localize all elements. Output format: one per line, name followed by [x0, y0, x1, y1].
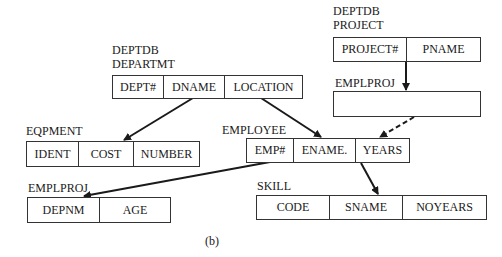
arrow-dname-to-cost	[124, 98, 193, 140]
field-cost: COST	[79, 142, 134, 166]
field-age: AGE	[100, 198, 170, 222]
field-location: LOCATION	[225, 76, 302, 98]
field-code: CODE	[257, 196, 330, 219]
emplproj-bottom-record: DEPNM AGE	[27, 197, 171, 223]
field-noyears: NOYEARS	[403, 196, 486, 219]
field-emp-no: EMP#	[247, 139, 294, 162]
field-number: NUMBER	[134, 142, 199, 166]
eqpment-record-name: EQPMENT	[26, 125, 83, 138]
emplproj-top-record	[333, 91, 481, 117]
skill-record: CODE SNAME NOYEARS	[256, 195, 487, 220]
field-dname: DNAME	[164, 76, 225, 98]
employee-record: EMP# ENAME. YEARS	[246, 138, 410, 163]
field-ident: IDENT	[27, 142, 79, 166]
emplproj-top-record-name: EMPLPROJ	[335, 77, 395, 90]
field-depnm: DEPNM	[28, 198, 100, 222]
project-db-label: DEPTDB	[333, 5, 380, 18]
field-dept-no: DEPT#	[113, 76, 164, 98]
field-project-no: PROJECT#	[334, 38, 407, 61]
employee-record-name: EMPLOYEE	[222, 124, 286, 137]
project-record: PROJECT# PNAME	[333, 37, 481, 62]
field-sname: SNAME	[330, 196, 403, 219]
arrow-emplproj-to-years-dashed	[380, 117, 414, 137]
arrow-emp-to-depnm	[84, 162, 270, 196]
field-pname: PNAME	[407, 38, 480, 61]
eqpment-record: IDENT COST NUMBER	[26, 141, 200, 167]
departmt-record: DEPT# DNAME LOCATION	[112, 75, 303, 99]
field-ename: ENAME.	[294, 139, 356, 162]
figure-caption: (b)	[205, 234, 219, 249]
departmt-db-label: DEPTDB	[112, 44, 159, 57]
arrow-years-to-sname	[361, 163, 378, 194]
project-record-name: PROJECT	[333, 19, 384, 32]
field-years: YEARS	[356, 139, 409, 162]
emplproj-bottom-record-name: EMPLPROJ	[28, 182, 88, 195]
skill-record-name: SKILL	[257, 180, 291, 193]
departmt-record-name: DEPARTMT	[112, 58, 175, 71]
